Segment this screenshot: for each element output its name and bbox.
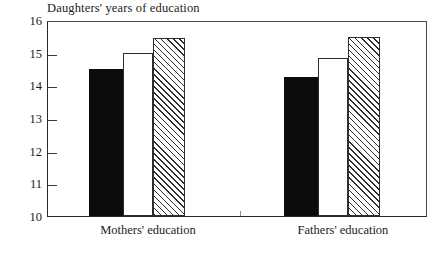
y-tick-label-12: 12 bbox=[16, 146, 42, 159]
bar-mothers-hatched bbox=[153, 38, 185, 216]
y-tick-mark-13 bbox=[48, 120, 57, 121]
y-tick-mark-14 bbox=[48, 87, 57, 88]
chart-title: Daughters' years of education bbox=[47, 1, 200, 16]
y-tick-label-13: 13 bbox=[16, 113, 42, 126]
bar-fathers-white bbox=[318, 58, 348, 216]
y-tick-mark-12 bbox=[48, 153, 57, 154]
y-tick-label-16: 16 bbox=[16, 15, 42, 28]
y-tick-label-14: 14 bbox=[16, 80, 42, 93]
y-tick-mark-15 bbox=[48, 55, 57, 56]
x-minor-tick bbox=[240, 211, 241, 216]
y-tick-label-11: 11 bbox=[16, 178, 42, 191]
bar-mothers-white bbox=[123, 53, 153, 216]
y-tick-mark-11 bbox=[48, 185, 57, 186]
x-category-label-mothers: Mothers' education bbox=[73, 223, 223, 238]
x-category-label-fathers: Fathers' education bbox=[268, 223, 418, 238]
bar-mothers-black bbox=[89, 69, 123, 216]
bar-fathers-black bbox=[284, 77, 318, 216]
y-tick-label-10: 10 bbox=[16, 211, 42, 224]
plot-area bbox=[47, 21, 427, 217]
bar-fathers-hatched bbox=[348, 37, 380, 216]
chart-figure: Daughters' years of education 16 15 14 1… bbox=[0, 0, 447, 257]
y-tick-label-15: 15 bbox=[16, 48, 42, 61]
